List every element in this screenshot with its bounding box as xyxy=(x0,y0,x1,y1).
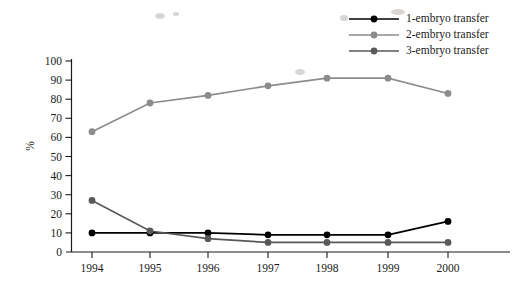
x-tick-label: 2000 xyxy=(437,262,460,274)
x-tick-label: 1997 xyxy=(257,262,280,274)
data-point[interactable] xyxy=(445,90,452,97)
data-point[interactable] xyxy=(445,239,452,246)
series-3-embryo xyxy=(89,197,452,246)
y-tick-label: 40 xyxy=(51,170,63,182)
y-tick-20: 20 xyxy=(51,208,72,220)
legend-swatch-marker xyxy=(371,48,378,55)
x-tick-label: 1995 xyxy=(139,262,162,274)
data-point[interactable] xyxy=(385,239,392,246)
y-axis-title: % xyxy=(24,141,36,151)
x-tick-label: 1996 xyxy=(197,262,220,274)
y-tick-0: 0 xyxy=(56,246,62,258)
x-tick-2000: 2000 xyxy=(437,252,460,274)
x-tick-1998: 1998 xyxy=(316,252,339,274)
y-tick-label: 0 xyxy=(56,246,62,258)
data-point[interactable] xyxy=(324,75,331,82)
data-point[interactable] xyxy=(205,92,212,99)
legend-item-label: 2-embryo transfer xyxy=(406,28,489,41)
series-layer xyxy=(89,75,452,246)
legend-swatch-marker xyxy=(371,32,378,39)
data-point[interactable] xyxy=(385,75,392,82)
legend: 1-embryo transfer 2-embryo transfer 3-em… xyxy=(349,12,489,57)
data-point[interactable] xyxy=(89,197,96,204)
y-tick-label: 50 xyxy=(51,151,63,163)
data-point[interactable] xyxy=(147,228,154,235)
y-tick-50: 50 xyxy=(51,151,72,163)
x-axis-ticks: 1994 1995 1996 1997 1998 1999 xyxy=(81,252,460,274)
legend-item-label: 1-embryo transfer xyxy=(406,12,489,25)
data-point[interactable] xyxy=(324,231,331,238)
x-tick-label: 1998 xyxy=(316,262,339,274)
data-point[interactable] xyxy=(445,218,452,225)
legend-item-label: 3-embryo transfer xyxy=(406,44,489,57)
y-tick-label: 90 xyxy=(51,74,63,86)
y-tick-10: 10 xyxy=(51,227,72,239)
y-tick-label: 10 xyxy=(51,227,63,239)
x-tick-1994: 1994 xyxy=(81,252,104,274)
x-tick-1995: 1995 xyxy=(139,252,162,274)
x-tick-1997: 1997 xyxy=(257,252,280,274)
x-tick-label: 1999 xyxy=(377,262,400,274)
y-tick-label: 60 xyxy=(51,131,63,143)
y-tick-label: 80 xyxy=(51,93,63,105)
x-tick-label: 1994 xyxy=(81,262,104,274)
y-tick-label: 70 xyxy=(51,112,63,124)
x-tick-1996: 1996 xyxy=(197,252,220,274)
data-point[interactable] xyxy=(265,239,272,246)
chart-page: 100 90 80 70 60 50 xyxy=(0,0,516,292)
y-tick-label: 20 xyxy=(51,208,63,220)
y-tick-60: 60 xyxy=(51,131,72,143)
legend-item-3-embryo[interactable]: 3-embryo transfer xyxy=(349,44,489,57)
y-tick-100: 100 xyxy=(45,55,72,67)
y-tick-label: 30 xyxy=(51,189,63,201)
line-chart: 100 90 80 70 60 50 xyxy=(0,0,516,292)
data-point[interactable] xyxy=(89,128,96,135)
series-2-embryo xyxy=(89,75,452,135)
x-tick-1999: 1999 xyxy=(377,252,400,274)
data-point[interactable] xyxy=(147,100,154,107)
legend-item-2-embryo[interactable]: 2-embryo transfer xyxy=(349,28,489,41)
y-tick-70: 70 xyxy=(51,112,72,124)
data-point[interactable] xyxy=(205,235,212,242)
legend-item-1-embryo[interactable]: 1-embryo transfer xyxy=(349,12,489,25)
y-tick-90: 90 xyxy=(51,74,72,86)
y-axis-ticks: 100 90 80 70 60 50 xyxy=(45,55,72,258)
y-tick-label: 100 xyxy=(45,55,63,67)
y-tick-30: 30 xyxy=(51,189,72,201)
legend-swatch-marker xyxy=(371,16,378,23)
data-point[interactable] xyxy=(385,231,392,238)
data-point[interactable] xyxy=(89,230,96,237)
y-tick-80: 80 xyxy=(51,93,72,105)
data-point[interactable] xyxy=(265,82,272,89)
data-point[interactable] xyxy=(265,231,272,238)
y-tick-40: 40 xyxy=(51,170,72,182)
data-point[interactable] xyxy=(324,239,331,246)
